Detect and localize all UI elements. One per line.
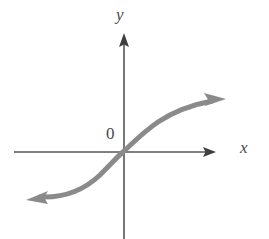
y-axis-label: y: [116, 6, 124, 23]
x-axis-label: x: [240, 139, 248, 156]
graph-figure: y x 0: [0, 0, 269, 239]
increasing-sigmoid-curve: [40, 101, 212, 197]
origin-label: 0: [106, 125, 115, 142]
graph-canvas: [0, 0, 269, 239]
